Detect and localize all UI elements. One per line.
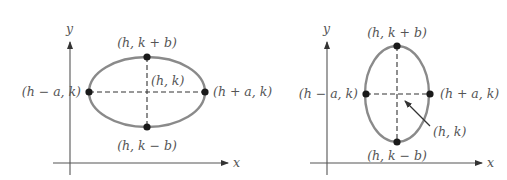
ellipse-diagrams: y x (h, k + b) (h, k − b) (h − a, k) (h … bbox=[0, 0, 507, 180]
label-bottom: (h, k − b) bbox=[117, 138, 177, 153]
horizontal-ellipse-diagram: y x (h, k + b) (h, k − b) (h − a, k) (h … bbox=[22, 21, 273, 175]
x-axis-label: x bbox=[487, 155, 494, 170]
label-right: (h + a, k) bbox=[213, 84, 272, 99]
label-left: (h − a, k) bbox=[299, 86, 358, 101]
vertex-left-dot bbox=[362, 90, 369, 97]
label-center: (h, k) bbox=[433, 124, 466, 139]
vertex-bottom-dot bbox=[393, 138, 400, 145]
label-left: (h − a, k) bbox=[22, 84, 81, 99]
vertex-right-dot bbox=[201, 88, 208, 95]
y-axis-label: y bbox=[65, 21, 74, 36]
vertex-bottom-dot bbox=[143, 123, 150, 130]
x-axis-label: x bbox=[233, 155, 240, 170]
y-axis-label: y bbox=[322, 21, 331, 36]
vertex-top-dot bbox=[393, 42, 400, 49]
label-right: (h + a, k) bbox=[440, 86, 499, 101]
vertical-ellipse-diagram: y x (h, k + b) (h, k − b) (h − a, k) (h … bbox=[299, 21, 500, 175]
vertex-left-dot bbox=[85, 88, 92, 95]
vertex-top-dot bbox=[143, 53, 150, 60]
label-center: (h, k) bbox=[151, 73, 184, 88]
label-bottom: (h, k − b) bbox=[367, 148, 427, 163]
label-top: (h, k + b) bbox=[117, 35, 177, 50]
vertex-right-dot bbox=[426, 90, 433, 97]
label-top: (h, k + b) bbox=[367, 25, 427, 40]
